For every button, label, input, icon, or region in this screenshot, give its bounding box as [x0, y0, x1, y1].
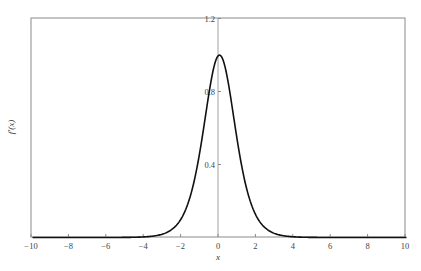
y-tick-label: 1.2 — [204, 14, 215, 24]
x-tick-label: −2 — [176, 241, 185, 251]
x-tick-label: −10 — [24, 241, 37, 251]
data-curve — [33, 55, 407, 238]
y-axis-label: f'(x) — [6, 120, 16, 134]
x-tick-label: −4 — [139, 241, 149, 251]
x-tick-label: −8 — [64, 241, 73, 251]
x-tick-label: 10 — [401, 241, 410, 251]
y-tick-label: 0.4 — [204, 160, 215, 170]
x-tick-label: 2 — [253, 241, 257, 251]
x-axis-label: x — [215, 252, 220, 262]
x-tick-label: 8 — [365, 241, 369, 251]
x-tick-label: 6 — [328, 241, 332, 251]
x-tick-label: −6 — [101, 241, 110, 251]
y-axis-ticks: 0.40.81.2 — [204, 14, 221, 170]
x-tick-label: 0 — [216, 241, 220, 251]
chart: −10−8−6−4−20246810 0.40.81.2 x f'(x) — [0, 0, 421, 271]
x-tick-label: 4 — [291, 241, 296, 251]
